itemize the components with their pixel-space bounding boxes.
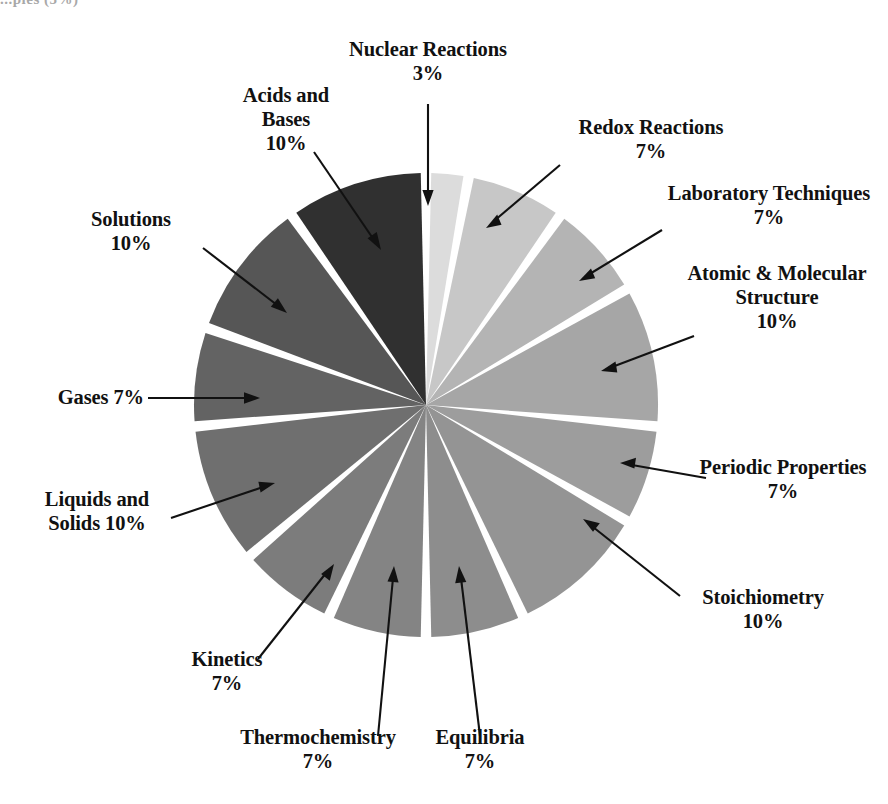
leader-nuclear-reactions bbox=[422, 104, 433, 206]
label-solutions: Solutions 10% bbox=[56, 208, 206, 256]
label-periodic-properties: Periodic Properties 7% bbox=[678, 456, 888, 504]
label-atomic-molecular-structure: Atomic & Molecular Structure 10% bbox=[666, 262, 888, 333]
label-acids-and-bases: Acids and Bases 10% bbox=[210, 84, 362, 155]
pie-chart-page: ...pies (5%) bbox=[0, 0, 888, 804]
label-equilibria: Equilibria 7% bbox=[406, 726, 554, 774]
label-laboratory-techniques: Laboratory Techniques 7% bbox=[650, 182, 888, 230]
pie-slice-group bbox=[194, 173, 658, 637]
label-nuclear-reactions: Nuclear Reactions 3% bbox=[330, 38, 526, 86]
label-liquids-and-solids: Liquids and Solids 10% bbox=[18, 488, 176, 536]
label-redox-reactions: Redox Reactions 7% bbox=[556, 116, 746, 164]
label-stoichiometry: Stoichiometry 10% bbox=[668, 586, 858, 634]
label-thermochemistry: Thermochemistry 7% bbox=[218, 726, 418, 774]
label-kinetics: Kinetics 7% bbox=[160, 648, 294, 696]
label-gases: Gases 7% bbox=[14, 386, 144, 410]
